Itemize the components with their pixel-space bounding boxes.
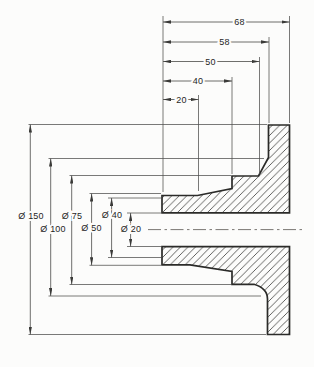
diameter-dim-label-150: Ø 150 (18, 211, 44, 221)
length-dim-label-50: 50 (205, 57, 215, 67)
length-dim-label-20: 20 (176, 95, 186, 105)
diameter-dim-label-20: Ø 20 (121, 224, 141, 234)
diameter-dim-label-50: Ø 50 (81, 223, 101, 233)
length-dim-label-58: 58 (219, 37, 229, 47)
drawing-canvas: 68 58 50 40 20 Ø 150 Ø 100 Ø 75 Ø 50 Ø 4… (0, 0, 314, 367)
diameter-dim-label-40: Ø 40 (102, 210, 122, 220)
engineering-section-drawing: 68 58 50 40 20 Ø 150 Ø 100 Ø 75 Ø 50 Ø 4… (0, 0, 314, 367)
length-dim-label-40: 40 (193, 76, 203, 86)
diameter-dim-label-100: Ø 100 (40, 224, 66, 234)
length-dim-label-68: 68 (234, 17, 244, 27)
diameter-dim-label-75: Ø 75 (62, 211, 82, 221)
